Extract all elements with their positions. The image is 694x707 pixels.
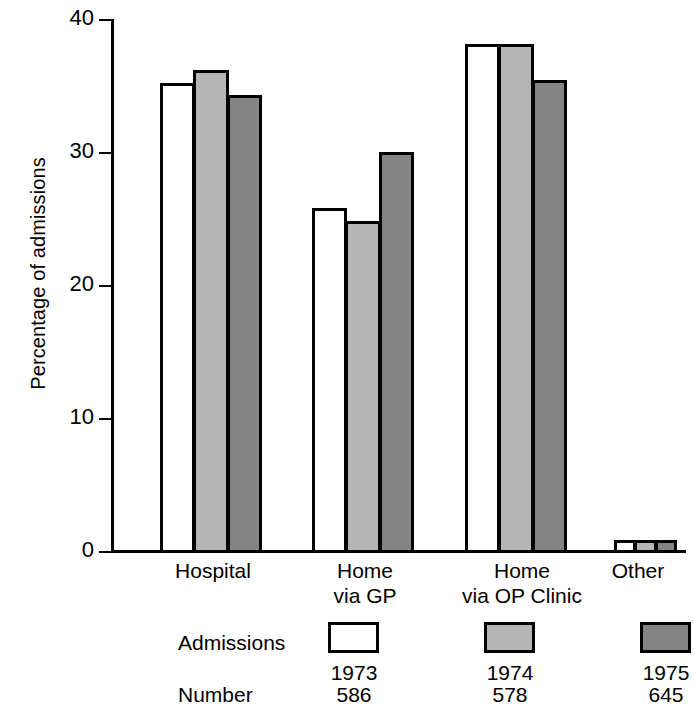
legend-year-1973: 1973 [309, 662, 399, 683]
bar-1975-other [655, 540, 677, 553]
bar-chart-figure: Percentage of admissions 40 30 20 10 0 H… [0, 0, 694, 707]
bar-1973-hospital [160, 83, 195, 553]
legend-swatch-1973[interactable] [328, 622, 379, 653]
legend-year-1974: 1974 [465, 662, 555, 683]
bar-1974-home-via-op-clinic [498, 44, 533, 553]
legend-number-1974: 578 [465, 684, 555, 705]
bar-1975-hospital [227, 95, 262, 553]
x-category-label-other: Other [588, 558, 688, 583]
x-category-label-home-via-op-clinic: Home via OP Clinic [438, 558, 606, 608]
x-category-label-hospital: Hospital [133, 558, 293, 583]
bar-1973-home-via-op-clinic [465, 44, 500, 553]
legend-swatch-1975[interactable] [640, 622, 691, 653]
legend-row-label-number: Number [178, 684, 253, 705]
bar-1975-home-via-op-clinic [532, 80, 567, 553]
x-category-label-home-via-gp: Home via GP [285, 558, 445, 608]
legend-number-1973: 586 [309, 684, 399, 705]
bar-1974-home-via-gp [345, 221, 380, 553]
bar-1973-other [614, 540, 636, 553]
bar-1975-home-via-gp [379, 152, 414, 553]
legend-row-label-admissions: Admissions [178, 632, 285, 653]
legend-number-1975: 645 [621, 684, 694, 705]
legend-swatch-1974[interactable] [484, 622, 535, 653]
bar-1974-other [634, 540, 656, 553]
legend-year-1975: 1975 [621, 662, 694, 683]
bar-1974-hospital [193, 70, 228, 553]
bar-1973-home-via-gp [312, 208, 347, 553]
